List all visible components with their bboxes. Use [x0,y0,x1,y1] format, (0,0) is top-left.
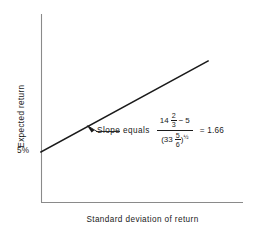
y-intercept-tick-label: 5% [17,147,29,155]
numerator-subtrahend: 5 [185,116,189,125]
denominator-whole-part: 33 [164,135,173,144]
slope-annotation: Slope equals 14 2 3 − 5 ( 33 [97,108,224,152]
slope-result: = 1.66 [200,126,224,135]
numerator-fraction: 2 3 [171,112,177,128]
formula-denominator: ( 33 5 6 ) ½ [158,131,191,149]
formula-numerator: 14 2 3 − 5 [157,111,193,129]
annotation-arrow-head [87,125,95,133]
denominator-exponent: ½ [183,134,188,140]
denominator-mixed-number: 33 5 6 [164,132,181,148]
numerator-whole-part: 14 [160,116,169,125]
chart-figure: Expected return Standard deviation of re… [0,0,257,234]
x-axis-label: Standard deviation of return [41,216,244,224]
slope-annotation-text: Slope equals [97,126,150,135]
numerator-fraction-top: 2 [171,112,177,119]
slope-formula-fraction: 14 2 3 − 5 ( 33 5 [157,111,193,149]
numerator-fraction-bottom: 3 [171,121,177,128]
numerator-minus-operator: − [179,116,184,125]
numerator-mixed-number: 14 2 3 [160,112,177,128]
